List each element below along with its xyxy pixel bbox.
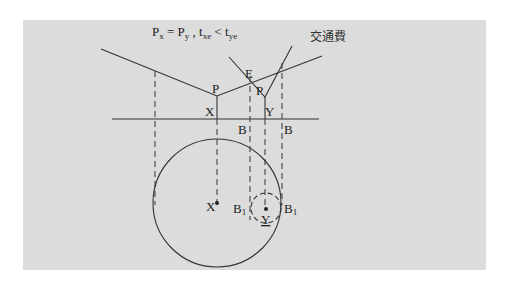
title-formula: Px = Py , txe < tye [152,24,237,41]
x-center-dot [215,201,219,205]
label-b1-left: B1 [233,201,246,217]
label-b1-right: B1 [284,201,297,217]
label-p-left: P [212,81,219,96]
label-p-right: P [256,83,263,98]
transport-cost-label: 交通費 [310,29,346,44]
label-y-center: Y [261,212,271,227]
label-e: E [245,66,253,81]
label-x-center: X [206,199,216,214]
label-y-axis: Y [265,104,275,119]
label-b-left: B [238,122,247,137]
label-x-axis: X [205,104,215,119]
market-area-diagram: Px = Py , txe < tye 交通費 E P P X Y B B X … [0,0,509,285]
label-b-right: B [284,122,293,137]
y-center-dot [264,207,268,211]
